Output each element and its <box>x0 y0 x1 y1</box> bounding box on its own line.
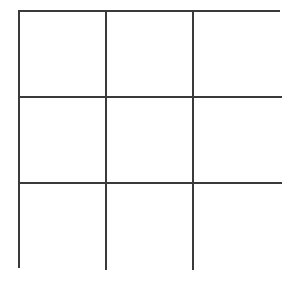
grid-cell-1-1[interactable] <box>107 98 194 184</box>
grid-cell-2-1[interactable] <box>107 184 194 270</box>
grid-cell-1-0[interactable] <box>20 98 107 184</box>
grid-cell-2-0[interactable] <box>20 184 107 270</box>
grid-cell-2-2[interactable] <box>194 184 282 270</box>
grid-cell-0-0[interactable] <box>20 12 107 98</box>
grid-cell-0-2[interactable] <box>194 12 282 98</box>
grid-cell-1-2[interactable] <box>194 98 282 184</box>
grid-cell-0-1[interactable] <box>107 12 194 98</box>
tic-tac-toe-grid <box>18 10 280 268</box>
